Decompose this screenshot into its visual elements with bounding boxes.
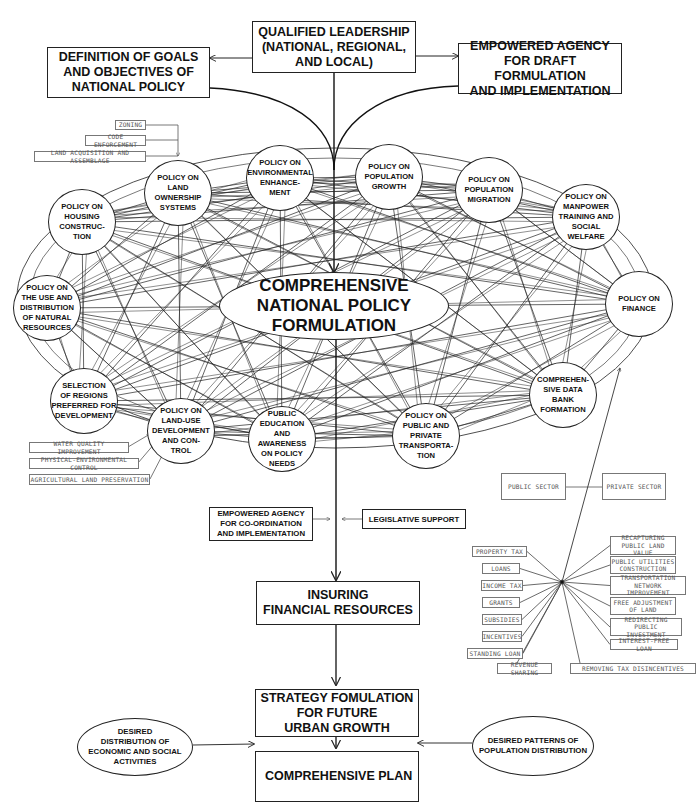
public-sector-tag: PUBLIC SECTOR [501, 473, 566, 500]
node-data-bank: COMPREHEN- SIVE DATA BANK FORMATION [529, 362, 597, 428]
econ-social-ellipse: DESIRED DISTRIBUTION OF ECONOMIC AND SOC… [77, 718, 193, 776]
comprehensive-plan-box: COMPREHENSIVE PLAN [255, 751, 419, 802]
zoning-tag: ZONING [115, 120, 146, 130]
node-land-ownership: POLICY ON LAND OWNERSHIP SYSTEMS [144, 160, 212, 226]
node-natural-resources: POLICY ON THE USE AND DISTRIBUTION OF NA… [13, 275, 81, 341]
finance-source-tag: SUBSIDIES [482, 614, 522, 625]
strategy-formulation-box: STRATEGY FOMULATION FOR FUTURE URBAN GRO… [255, 689, 419, 737]
legislative-support-box: LEGISLATIVE SUPPORT [362, 509, 466, 529]
finance-measure-tag: REDIRECTING PUBLIC INVESTMENT [610, 618, 682, 636]
finance-measure-tag: INTEREST-FREE LOAN [610, 639, 678, 650]
draft-agency-box: EMPOWERED AGENCY FOR DRAFT FORMULATION A… [458, 43, 622, 94]
node-housing: POLICY ON HOUSING CONSTRUC- TION [48, 189, 116, 255]
node-population-growth: POLICY ON POPULATION GROWTH [355, 144, 423, 210]
finance-source-tag: GRANTS [482, 597, 520, 608]
node-land-use: POLICY ON LAND-USE DEVELOPMENT AND CON- … [147, 398, 215, 464]
node-regions: SELECTION OF REGIONS PREFERRED FOR DEVEL… [50, 368, 118, 434]
finance-measure-tag: TRANSPORTATION NETWORK IMPROVEMENT [610, 576, 686, 595]
population-patterns-ellipse: DESIRED PATTERNS OF POPULATION DISTRIBUT… [472, 716, 594, 776]
finance-bottom-tag: REMOVING TAX DISINCENTIVES [570, 663, 696, 674]
finance-source-tag: INCENTIVES [482, 631, 522, 642]
water-quality-tag: WATER QUALITY IMPROVEMENT [29, 442, 129, 453]
financial-resources-box: INSURING FINANCIAL RESOURCES [256, 581, 420, 625]
finance-measure-tag: PUBLIC UTILITIES CONSTRUCTION [610, 556, 676, 574]
node-manpower: POLICY ON MANPOWER TRAINING AND SOCIAL W… [552, 184, 620, 250]
agricultural-land-tag: AGRICULTURAL LAND PRESERVATION [29, 474, 150, 485]
physical-environmental-tag: PHYSICAL-ENVIRONMENTAL CONTROL [29, 458, 139, 469]
node-population-migration: POLICY ON POPULATION MIGRATION [455, 157, 523, 223]
node-finance: POLICY ON FINANCE [605, 271, 673, 337]
finance-source-tag: STANDING LOAN [467, 648, 523, 659]
private-sector-tag: PRIVATE SECTOR [602, 473, 666, 500]
finance-source-tag: INCOME TAX [481, 580, 523, 591]
finance-bottom-tag: REVENUE SHARING [497, 663, 552, 674]
qualified-leadership-box: QUALIFIED LEADERSHIP (NATIONAL, REGIONAL… [252, 21, 416, 73]
finance-measure-tag: FREE ADJUSTMENT OF LAND [610, 597, 676, 615]
coordination-agency-box: EMPOWERED AGENCY FOR CO-ORDINATION AND I… [209, 507, 313, 541]
land-acquisition-tag: LAND ACQUISITION AND ASSEMBLAGE [34, 151, 146, 162]
node-environmental: POLICY ON ENVIRONMENTAL ENHANCE- MENT [246, 145, 314, 211]
central-policy-ellipse: COMPREHENSIVE NATIONAL POLICY FORMULATIO… [219, 272, 449, 340]
finance-measure-tag: RECAPTURING PUBLIC LAND VALUE [610, 536, 676, 555]
code-enforcement-tag: CODE ENFORCEMENT [85, 135, 146, 146]
node-public-education: PUBLIC EDUCATION AND AWARENESS ON POLICY… [248, 406, 316, 472]
goals-definition-box: DEFINITION OF GOALS AND OBJECTIVES OF NA… [47, 47, 210, 98]
finance-source-tag: PROPERTY TAX [472, 546, 527, 557]
node-transportation: POLICY ON PUBLIC AND PRIVATE TRANSPORTA-… [392, 403, 460, 469]
finance-source-tag: LOANS [482, 563, 520, 574]
